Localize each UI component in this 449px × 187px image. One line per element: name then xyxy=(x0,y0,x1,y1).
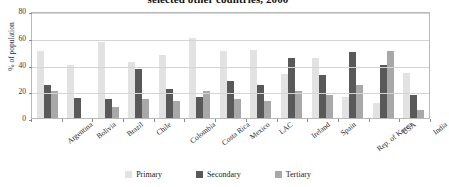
bar-secondary xyxy=(227,81,234,118)
legend-label: Secondary xyxy=(207,170,241,179)
bar-group xyxy=(124,13,155,118)
y-tick-mark xyxy=(29,93,32,94)
x-axis-tick-label: Bolivia xyxy=(95,120,118,141)
bar-group xyxy=(246,13,277,118)
x-axis-tick-label: India xyxy=(431,120,449,137)
bar-primary xyxy=(189,38,196,118)
bar-primary xyxy=(403,73,410,118)
y-tick-label: 80 xyxy=(6,8,26,16)
legend-swatch-icon xyxy=(275,171,282,178)
bar-primary xyxy=(373,103,380,118)
bar-secondary xyxy=(349,52,356,118)
bar-secondary xyxy=(319,75,326,118)
plot-area xyxy=(31,12,430,119)
y-tick-label: 40 xyxy=(6,62,26,70)
bar-group xyxy=(32,13,63,118)
bar-primary xyxy=(128,62,135,118)
bar-secondary xyxy=(380,65,387,119)
y-tick-label: 0 xyxy=(6,115,26,123)
x-axis-tick-label: LAC xyxy=(277,120,294,136)
y-axis-label: % of population xyxy=(7,9,16,85)
gridline xyxy=(32,93,429,94)
bar-group xyxy=(337,13,368,118)
bar-group xyxy=(215,13,246,118)
bar-secondary xyxy=(196,97,203,118)
bar-tertiary xyxy=(51,91,58,118)
y-tick-mark xyxy=(29,13,32,14)
x-axis-tick-label: Argentina xyxy=(66,120,95,145)
x-axis-tick-label: Spain xyxy=(339,120,358,138)
bar-tertiary xyxy=(356,85,363,118)
x-axis-tick-label: Costa Rica xyxy=(220,120,251,147)
gridline xyxy=(32,67,429,68)
bar-secondary xyxy=(257,85,264,118)
bar-group xyxy=(63,13,94,118)
bar-group xyxy=(276,13,307,118)
bar-tertiary xyxy=(142,99,149,118)
bar-group xyxy=(307,13,338,118)
bar-group xyxy=(368,13,399,118)
legend-swatch-icon xyxy=(196,171,203,178)
bar-tertiary xyxy=(295,91,302,118)
bar-primary xyxy=(67,65,74,119)
gridline xyxy=(32,40,429,41)
bar-tertiary xyxy=(234,99,241,118)
legend-label: Primary xyxy=(136,170,162,179)
bar-secondary xyxy=(44,85,51,118)
bar-groups xyxy=(32,13,429,118)
bar-tertiary xyxy=(387,51,394,118)
legend-label: Tertiary xyxy=(286,170,311,179)
bar-tertiary xyxy=(203,91,210,118)
bar-secondary xyxy=(74,98,81,118)
x-axis-tick-label: Brazil xyxy=(124,120,144,138)
legend-swatch-icon xyxy=(125,171,132,178)
bar-tertiary xyxy=(112,107,119,118)
bar-primary xyxy=(37,51,44,118)
bar-primary xyxy=(98,42,105,118)
x-axis-tick-label: Chile xyxy=(155,120,173,137)
bar-group xyxy=(398,13,429,118)
chart-title: selected other countries, 2000 xyxy=(0,0,436,6)
x-axis-tick-label: Colombia xyxy=(188,120,217,145)
y-tick-mark xyxy=(29,40,32,41)
bar-group xyxy=(185,13,216,118)
bar-primary xyxy=(281,74,288,118)
x-tick-mark xyxy=(430,119,431,122)
bar-tertiary xyxy=(173,101,180,118)
bar-tertiary xyxy=(417,110,424,118)
legend-item-tertiary[interactable]: Tertiary xyxy=(275,170,311,179)
y-tick-mark xyxy=(29,67,32,68)
y-tick-label: 20 xyxy=(6,88,26,96)
x-axis-tick-label: Ireland xyxy=(309,120,331,140)
x-axis-tick-label: Mexico xyxy=(248,120,272,141)
x-axis-labels: ArgentinaBoliviaBrazilChileColombiaCosta… xyxy=(31,120,430,166)
gridline xyxy=(32,13,429,14)
legend-item-primary[interactable]: Primary xyxy=(125,170,162,179)
bar-primary xyxy=(159,55,166,118)
chart-legend: PrimarySecondaryTertiary xyxy=(0,170,436,179)
bar-tertiary xyxy=(264,101,271,118)
bar-tertiary xyxy=(326,95,333,118)
bar-primary xyxy=(342,97,349,118)
bar-group xyxy=(154,13,185,118)
bar-primary xyxy=(220,51,227,118)
bar-secondary xyxy=(105,99,112,118)
y-tick-label: 60 xyxy=(6,35,26,43)
bar-secondary xyxy=(410,95,417,118)
bar-group xyxy=(93,13,124,118)
bar-primary xyxy=(250,50,257,118)
legend-item-secondary[interactable]: Secondary xyxy=(196,170,241,179)
